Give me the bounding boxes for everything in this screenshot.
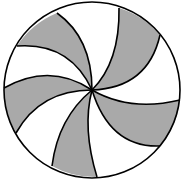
pinwheel-diagram: Pinwheel circle: [0, 0, 183, 182]
pinwheel-svg: [0, 0, 183, 182]
shaded-section: [52, 90, 97, 177]
